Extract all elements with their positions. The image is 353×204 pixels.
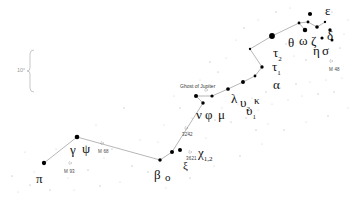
- star-beta: [170, 150, 174, 154]
- field-star: [180, 108, 181, 109]
- field-star: [222, 108, 223, 109]
- field-star: [214, 166, 215, 167]
- deep-sky-markers: [69, 60, 333, 165]
- constellation-line: [44, 137, 77, 163]
- deepsky-marker-m93: [69, 162, 72, 165]
- field-star: [192, 118, 193, 119]
- field-star: [100, 186, 101, 187]
- field-star: [96, 125, 97, 126]
- field-star: [310, 82, 311, 83]
- field-star: [132, 166, 133, 167]
- field-star: [30, 185, 31, 186]
- field-star: [258, 110, 259, 111]
- constellation-line: [212, 89, 228, 96]
- field-star: [74, 190, 75, 191]
- scale-bracket: [27, 50, 34, 92]
- star-tau2: [307, 21, 310, 24]
- field-star: [210, 62, 211, 63]
- field-star: [318, 52, 319, 53]
- field-star: [294, 56, 295, 57]
- star-lambda: [241, 80, 245, 84]
- constellation-lines: [44, 22, 325, 163]
- deepsky-marker-m48: [330, 60, 333, 63]
- scale-bar: [27, 50, 34, 92]
- star-kappa: [249, 48, 251, 50]
- star-psi: [158, 158, 161, 161]
- field-star: [296, 84, 297, 85]
- star-sigma: [330, 38, 333, 41]
- star-zeta: [303, 28, 308, 33]
- field-star: [68, 178, 69, 179]
- field-star: [276, 12, 277, 13]
- star-chi: [201, 101, 204, 104]
- star-omega: [324, 21, 326, 23]
- star-alpha: [269, 33, 275, 39]
- star-theta: [315, 25, 319, 29]
- field-star: [288, 100, 289, 101]
- field-star: [286, 44, 287, 45]
- field-star: [218, 72, 219, 73]
- constellation-line: [255, 67, 262, 76]
- star-upsilon1: [260, 65, 263, 68]
- star-eta: [320, 36, 323, 39]
- field-star: [25, 152, 26, 153]
- named-stars: [42, 12, 334, 165]
- field-star: [280, 88, 281, 89]
- field-star: [318, 94, 319, 95]
- field-star: [124, 108, 125, 109]
- field-star: [104, 158, 105, 159]
- field-star: [240, 156, 241, 157]
- field-star: [344, 34, 345, 35]
- field-star: [266, 92, 267, 93]
- field-star: [166, 188, 167, 189]
- field-star: [258, 20, 259, 21]
- field-star: [252, 98, 253, 99]
- field-star: [342, 78, 343, 79]
- star-delta: [328, 28, 331, 31]
- field-star: [158, 142, 159, 143]
- star-phi: [210, 94, 213, 97]
- deepsky-marker-ghost-of-jupiter: [205, 89, 208, 92]
- star-tau1: [298, 22, 301, 25]
- field-star: [236, 40, 237, 41]
- constellation-line: [228, 82, 243, 89]
- field-star: [326, 80, 327, 81]
- constellation-line: [172, 103, 203, 152]
- star-pi: [42, 161, 46, 165]
- field-star: [190, 178, 191, 179]
- constellation-line: [77, 137, 160, 160]
- field-star: [256, 130, 257, 131]
- field-star: [306, 60, 307, 61]
- field-star: [174, 96, 175, 97]
- field-star: [328, 116, 329, 117]
- constellation-line: [250, 36, 272, 49]
- field-star: [34, 172, 35, 173]
- field-star: [272, 104, 273, 105]
- field-star: [306, 122, 307, 123]
- field-star: [112, 149, 113, 150]
- star-chart: πγψβοξχ1,2νφμλυ2υ1κατ1τ2θωζεδησGhost of …: [0, 0, 353, 204]
- constellation-line: [272, 23, 299, 36]
- field-star: [332, 12, 333, 13]
- field-stars: [12, 8, 349, 193]
- field-star: [262, 144, 263, 145]
- field-star: [246, 118, 247, 119]
- field-star: [268, 124, 269, 125]
- field-star: [244, 28, 245, 29]
- constellation-line: [243, 76, 255, 82]
- field-star: [200, 80, 201, 81]
- star-upsilon2: [254, 75, 257, 78]
- field-star: [18, 192, 19, 193]
- field-star: [284, 130, 285, 131]
- sky-canvas: [0, 0, 353, 204]
- field-star: [50, 190, 51, 191]
- field-star: [348, 108, 349, 109]
- field-star: [188, 132, 189, 133]
- star-gamma: [75, 135, 80, 140]
- constellation-line: [250, 49, 262, 67]
- field-star: [231, 122, 232, 123]
- field-star: [215, 120, 216, 121]
- field-star: [12, 176, 13, 177]
- constellation-line: [160, 152, 172, 160]
- field-star: [348, 20, 349, 21]
